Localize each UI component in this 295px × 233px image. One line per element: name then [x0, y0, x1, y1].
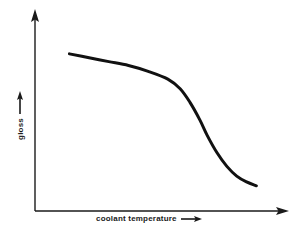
arrow-up-icon — [16, 90, 24, 114]
x-axis-label: coolant temperature — [96, 214, 203, 223]
data-series-line — [69, 54, 256, 186]
x-axis-label-text: coolant temperature — [96, 214, 177, 223]
chart-figure: coolant temperature gloss — [0, 0, 295, 233]
arrow-right-icon — [181, 215, 203, 223]
chart-plot-area — [0, 0, 295, 233]
y-axis-label: gloss — [13, 85, 27, 145]
y-axis-label-text: gloss — [16, 118, 25, 140]
